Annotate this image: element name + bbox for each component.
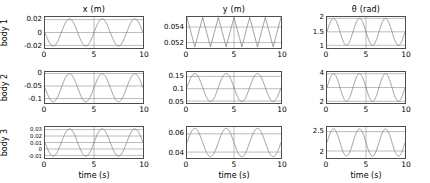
x-tick-label: 10 <box>277 105 287 114</box>
y-tick-label: 3 <box>320 84 324 92</box>
x-axis-label: time (s) <box>326 171 406 180</box>
axes-box <box>326 126 406 159</box>
x-tick-label: 5 <box>232 50 237 59</box>
y-tick-label: 0.01 <box>30 140 42 146</box>
y-tick-label: -0.02 <box>24 42 42 50</box>
column-title: θ (rad) <box>326 5 406 14</box>
x-tick-label: 10 <box>139 105 149 114</box>
x-tick-label: 5 <box>232 105 237 114</box>
plot-panel-r2-c1: -0.1-0.0500510 <box>44 71 144 104</box>
plot-panel-r1-c2: y (m)0.0520.0540510 <box>186 16 282 49</box>
axes-box <box>186 16 282 49</box>
x-axis-label: time (s) <box>186 171 282 180</box>
x-tick-label: 10 <box>277 50 287 59</box>
x-tick-label: 5 <box>232 160 237 169</box>
x-axis-label: time (s) <box>44 171 144 180</box>
y-tick-label: 0.06 <box>168 129 184 137</box>
y-tick-label: 1.5 <box>313 28 324 36</box>
y-tick-label: 4 <box>320 69 324 77</box>
y-tick-label: 1 <box>320 42 324 50</box>
y-tick-label: 0.15 <box>168 72 184 80</box>
y-tick-label: 2 <box>320 148 324 156</box>
plot-panel-r1-c3: θ (rad)11.520510 <box>326 16 406 49</box>
y-tick-label: 0.02 <box>26 15 42 23</box>
x-tick-label: 0 <box>42 105 47 114</box>
plot-panel-r2-c2: 0.050.10.150510 <box>186 71 282 104</box>
y-tick-label: 2 <box>320 13 324 21</box>
figure-panel-grid: x (m)-0.0200.020510y (m)0.0520.0540510θ … <box>0 0 430 183</box>
x-tick-label: 5 <box>92 160 97 169</box>
plot-panel-r3-c2: 0.040.060510time (s) <box>186 126 282 159</box>
plot-panel-r3-c1: -0.0100.010.020.030510time (s) <box>44 126 144 159</box>
x-tick-label: 0 <box>184 50 189 59</box>
x-tick-label: 0 <box>324 160 329 169</box>
column-title: x (m) <box>44 5 144 14</box>
row-label-body-3: body 3 <box>0 122 9 162</box>
x-tick-label: 10 <box>139 160 149 169</box>
axes-box <box>44 126 144 159</box>
axes-box <box>186 71 282 104</box>
x-tick-label: 10 <box>401 105 411 114</box>
plot-panel-r1-c1: x (m)-0.0200.020510 <box>44 16 144 49</box>
plot-panel-r3-c3: 22.50510time (s) <box>326 126 406 159</box>
x-tick-label: 10 <box>401 50 411 59</box>
column-title: y (m) <box>186 5 282 14</box>
x-tick-label: 10 <box>139 50 149 59</box>
x-tick-label: 0 <box>42 160 47 169</box>
x-tick-label: 0 <box>184 160 189 169</box>
y-tick-label: 0.1 <box>173 85 184 93</box>
x-tick-label: 5 <box>364 160 369 169</box>
y-tick-label: 0.03 <box>30 126 42 132</box>
x-tick-label: 0 <box>324 50 329 59</box>
axes-box <box>326 16 406 49</box>
y-tick-label: 0 <box>39 146 42 152</box>
y-tick-label: 0 <box>38 69 42 77</box>
y-tick-label: 0.02 <box>30 133 42 139</box>
y-tick-label: 2.5 <box>313 127 324 135</box>
axes-box <box>186 126 282 159</box>
y-tick-label: -0.1 <box>28 95 42 103</box>
x-tick-label: 5 <box>92 50 97 59</box>
row-label-body-1: body 1 <box>0 12 9 52</box>
axes-box <box>44 16 144 49</box>
x-tick-label: 5 <box>364 50 369 59</box>
plot-panel-r2-c3: 2340510 <box>326 71 406 104</box>
x-tick-label: 0 <box>184 105 189 114</box>
axes-box <box>326 71 406 104</box>
y-tick-label: 0.04 <box>168 149 184 157</box>
x-tick-label: 5 <box>364 105 369 114</box>
x-tick-label: 10 <box>277 160 287 169</box>
y-tick-label: -0.01 <box>28 153 42 159</box>
row-label-body-2: body 2 <box>0 67 9 107</box>
y-tick-label: 0 <box>38 29 42 37</box>
y-tick-label: 0.05 <box>168 98 184 106</box>
axes-box <box>44 71 144 104</box>
y-tick-label: -0.05 <box>24 82 42 90</box>
x-tick-label: 0 <box>324 105 329 114</box>
x-tick-label: 0 <box>42 50 47 59</box>
x-tick-label: 5 <box>92 105 97 114</box>
x-tick-label: 10 <box>401 160 411 169</box>
y-tick-label: 0.052 <box>164 39 184 47</box>
y-tick-label: 0.054 <box>164 23 184 31</box>
